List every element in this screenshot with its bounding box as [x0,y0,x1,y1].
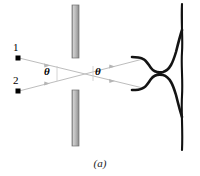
intensity-curve-layer [0,0,200,176]
angle-label-left: θ [44,66,50,77]
intensity-curve [132,30,182,117]
figure-caption: (a) [0,157,200,169]
angle-label-right: θ [95,66,101,77]
source-label-1: 1 [13,42,19,53]
source-label-2: 2 [13,75,19,86]
figure-two-source-interference: 1 2 θ θ (a) [0,0,200,176]
